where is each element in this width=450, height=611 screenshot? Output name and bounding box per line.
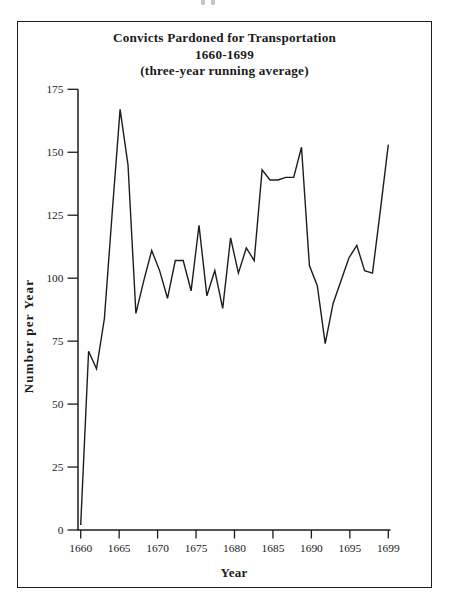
y-tick-label: 75 bbox=[52, 335, 64, 347]
line-chart: 0255075100125150175166016651670167516801… bbox=[0, 0, 450, 611]
axes bbox=[78, 89, 391, 530]
y-axis-title: Number per Year bbox=[21, 279, 36, 394]
x-tick-label: 1699 bbox=[377, 542, 400, 554]
x-tick-label: 1690 bbox=[300, 542, 323, 554]
y-tick-label: 175 bbox=[46, 83, 63, 95]
x-axis-title: Year bbox=[220, 565, 247, 580]
x-tick-label: 1665 bbox=[108, 542, 131, 554]
y-tick-label: 100 bbox=[46, 272, 63, 284]
y-tick-label: 125 bbox=[46, 209, 63, 221]
scanned-chart-page: Convicts Pardoned for Transportation 166… bbox=[0, 0, 450, 611]
y-tick-label: 25 bbox=[52, 461, 64, 473]
y-tick-label: 0 bbox=[58, 524, 64, 536]
data-line bbox=[81, 109, 389, 525]
x-tick-label: 1660 bbox=[69, 542, 92, 554]
x-tick-label: 1685 bbox=[262, 542, 285, 554]
x-tick-label: 1670 bbox=[146, 542, 169, 554]
y-tick-label: 150 bbox=[46, 146, 63, 158]
x-tick-label: 1675 bbox=[185, 542, 208, 554]
y-tick-label: 50 bbox=[52, 398, 64, 410]
x-tick-label: 1695 bbox=[338, 542, 361, 554]
x-tick-label: 1680 bbox=[223, 542, 246, 554]
